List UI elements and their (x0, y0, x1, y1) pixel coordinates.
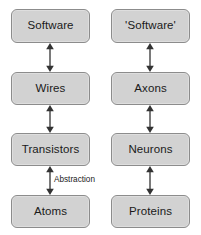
node-label: Neurons (128, 144, 172, 156)
node-atoms: Atoms (11, 195, 90, 228)
connector-wires-transistors (41, 105, 59, 133)
node-label: Software (27, 20, 73, 32)
connector-software-wires (41, 43, 59, 72)
connector-axons-neurons (141, 105, 159, 133)
node-label: Atoms (34, 206, 67, 218)
node-label: Transistors (22, 144, 80, 156)
edge-label-abstraction: Abstraction (54, 176, 95, 184)
node-axons: Axons (111, 72, 190, 105)
node-label: Axons (134, 83, 166, 95)
node-software: Software (11, 9, 90, 43)
diagram-canvas: Software Wires Transistors Abstraction A… (0, 0, 201, 235)
node-transistors: Transistors (11, 133, 90, 166)
node-neurons: Neurons (111, 133, 190, 166)
node-label: Wires (36, 83, 66, 95)
node-software-quoted: 'Software' (111, 9, 190, 43)
node-wires: Wires (11, 72, 90, 105)
node-label: Proteins (129, 206, 172, 218)
connector-neurons-proteins (141, 166, 159, 195)
node-label: 'Software' (125, 20, 176, 32)
connector-software-quoted-axons (141, 43, 159, 72)
node-proteins: Proteins (111, 195, 190, 228)
edge-label-text: Abstraction (54, 175, 95, 184)
